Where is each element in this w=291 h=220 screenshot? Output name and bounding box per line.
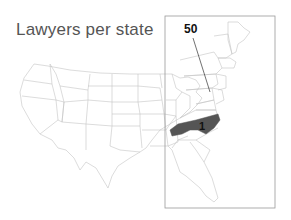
rank-label: 1: [199, 120, 205, 132]
us-state-map: [0, 0, 291, 220]
callout-label: 50: [184, 22, 197, 36]
east-coast-states: [168, 22, 250, 202]
north-carolina-highlight: [170, 114, 220, 136]
callout-line: [193, 38, 210, 92]
inset-box: [165, 16, 275, 208]
state-borders: [20, 64, 202, 188]
